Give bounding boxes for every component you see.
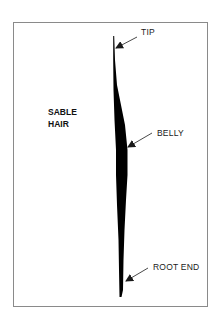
- sable-hair-diagram: [0, 0, 221, 323]
- root-arrow-icon: [126, 268, 148, 281]
- title-line-2: HAIR: [48, 118, 77, 130]
- title-line-1: SABLE: [48, 106, 77, 118]
- hair-shape: [113, 36, 127, 297]
- belly-label: BELLY: [157, 128, 184, 138]
- tip-label: TIP: [141, 27, 155, 37]
- root-end-label: ROOT END: [153, 262, 199, 272]
- belly-arrow-icon: [128, 133, 152, 147]
- tip-arrow-icon: [116, 37, 137, 48]
- diagram-title: SABLE HAIR: [48, 106, 77, 130]
